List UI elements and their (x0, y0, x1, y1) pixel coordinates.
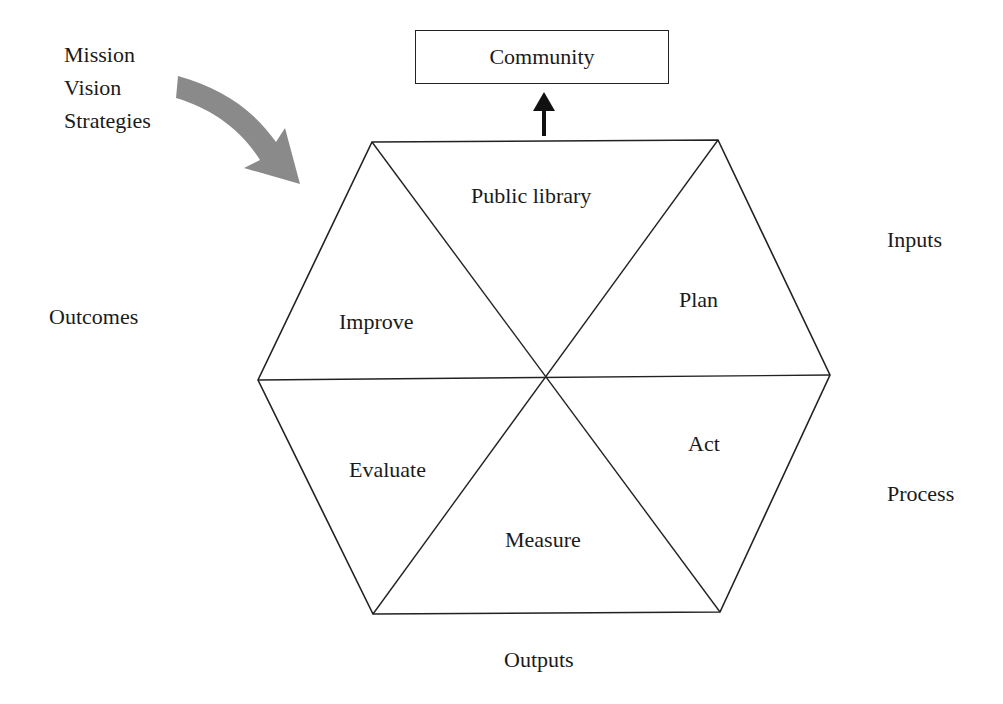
up-arrow-icon (533, 92, 555, 111)
segment-act: Act (688, 433, 720, 455)
segment-measure: Measure (505, 529, 581, 551)
community-label: Community (489, 44, 594, 70)
segment-public-library: Public library (471, 185, 591, 207)
driver-mission: Mission (64, 38, 151, 71)
drivers-list: Mission Vision Strategies (64, 38, 151, 137)
segment-evaluate: Evaluate (349, 459, 426, 481)
label-outcomes: Outcomes (49, 306, 138, 328)
driver-strategies: Strategies (64, 104, 151, 137)
label-inputs: Inputs (887, 229, 942, 251)
segment-improve: Improve (339, 311, 414, 333)
community-box: Community (415, 30, 669, 84)
label-outputs: Outputs (504, 649, 574, 671)
curved-arrow-icon (176, 76, 300, 184)
driver-vision: Vision (64, 71, 151, 104)
segment-plan: Plan (679, 289, 718, 311)
label-process: Process (887, 483, 954, 505)
